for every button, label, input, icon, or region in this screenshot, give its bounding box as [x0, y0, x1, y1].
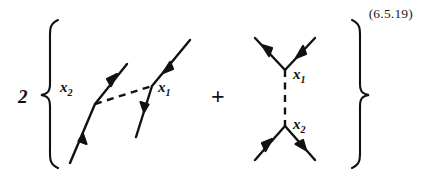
left-fermion-line: [70, 64, 127, 163]
diagram2-x1-label: x1: [293, 67, 306, 85]
diagram1-x2-label: x2: [60, 80, 73, 98]
diagram2-x2-subscript: 2: [301, 124, 306, 135]
equation-figure: (6.5.19) 2 +: [0, 0, 427, 178]
top-left-leg-arrow: [262, 45, 272, 56]
bottom-right-leg-arrow: [296, 140, 307, 150]
diagram2-x2-label: x2: [293, 117, 306, 135]
right-fermion-arrow-upper: [163, 62, 173, 73]
diagram1-x2-subscript: 2: [68, 87, 73, 98]
diagram2-x1-symbol: x: [293, 66, 301, 82]
diagram1-x2-symbol: x: [60, 79, 68, 95]
diagram2-x2-symbol: x: [293, 116, 301, 132]
diagram1-x1-label: x1: [158, 80, 171, 98]
diagram1-x1-subscript: 1: [166, 87, 171, 98]
right-fermion-arrow-lower: [141, 102, 149, 112]
top-right-leg-arrow: [296, 46, 306, 58]
left-fermion-arrow-lower: [79, 134, 87, 144]
diagram1-x1-symbol: x: [158, 79, 166, 95]
diagram2-x1-subscript: 1: [301, 74, 306, 85]
